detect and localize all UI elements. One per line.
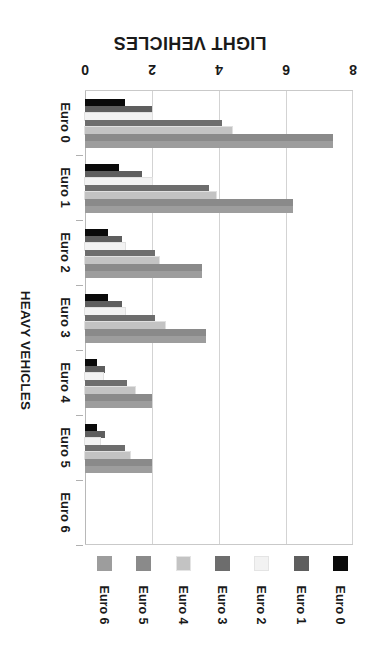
plot-area <box>85 90 353 545</box>
legend-item-euro-2[interactable]: Euro 2 <box>242 552 281 652</box>
bar-fill <box>85 380 127 387</box>
bar-fill <box>85 250 155 257</box>
bar <box>85 322 165 329</box>
legend-label: Euro 2 <box>242 576 281 648</box>
bar <box>85 171 142 178</box>
bar <box>85 236 122 243</box>
bar-fill <box>85 366 105 373</box>
legend-item-euro-3[interactable]: Euro 3 <box>203 552 242 652</box>
bar-group-euro-2 <box>85 221 353 286</box>
bar-fill <box>85 134 333 141</box>
bar-fill <box>85 401 152 408</box>
bar-group-euro-0 <box>85 91 353 156</box>
category-label-text: Euro 3 <box>58 297 73 337</box>
bar-fill <box>85 271 202 278</box>
legend-label-text: Euro 2 <box>255 586 269 625</box>
chart-legend: Euro 6Euro 5Euro 4Euro 3Euro 2Euro 1Euro… <box>85 552 360 652</box>
bar <box>85 359 97 366</box>
category-label-euro-6: Euro 6 <box>46 480 84 545</box>
bar-fill <box>85 315 155 322</box>
bar-fill <box>85 192 216 199</box>
bar <box>85 271 202 278</box>
bar <box>85 192 216 199</box>
bar <box>85 120 222 127</box>
value-axis-tick-0: 0 <box>81 62 89 78</box>
bar <box>85 308 125 315</box>
bar-fill <box>85 185 209 192</box>
legend-item-euro-0[interactable]: Euro 0 <box>321 552 360 652</box>
legend-label-text: Euro 1 <box>294 586 308 625</box>
legend-swatch <box>176 556 191 571</box>
legend-label: Euro 1 <box>281 576 320 648</box>
bar-fill <box>85 438 100 445</box>
bar-fill <box>85 387 135 394</box>
bar <box>85 445 125 452</box>
bar <box>85 373 103 380</box>
bar-group-euro-3 <box>85 286 353 351</box>
legend-label-text: Euro 5 <box>137 586 151 625</box>
bar <box>85 329 206 336</box>
y-axis-title: HEAVY VEHICLES <box>6 200 46 500</box>
bar <box>85 294 108 301</box>
bar-fill <box>85 164 119 171</box>
bar-fill <box>85 120 222 127</box>
legend-item-euro-5[interactable]: Euro 5 <box>124 552 163 652</box>
chart-figure: LIGHT VEHICLES HEAVY VEHICLES 02468 Euro… <box>0 0 380 656</box>
bar-fill <box>85 394 152 401</box>
bar-fill <box>85 113 152 120</box>
legend-label: Euro 6 <box>85 576 124 648</box>
legend-label-text: Euro 6 <box>98 586 112 625</box>
bar-fill <box>85 322 165 329</box>
bar <box>85 141 333 148</box>
bar <box>85 206 293 213</box>
bar <box>85 243 125 250</box>
bar <box>85 164 119 171</box>
value-axis-tick-3: 6 <box>282 62 290 78</box>
bar-fill <box>85 257 159 264</box>
bar <box>85 466 152 473</box>
bar <box>85 401 152 408</box>
bar <box>85 127 232 134</box>
category-axis-labels: Euro 0Euro 1Euro 2Euro 3Euro 4Euro 5Euro… <box>46 90 84 545</box>
bar-group-euro-1 <box>85 156 353 221</box>
bar <box>85 387 135 394</box>
bar <box>85 438 100 445</box>
legend-swatch <box>97 556 112 571</box>
bar-fill <box>85 445 125 452</box>
bar <box>85 394 152 401</box>
category-label-text: Euro 6 <box>58 492 73 532</box>
bar-fill <box>85 236 122 243</box>
bar <box>85 366 105 373</box>
legend-item-euro-1[interactable]: Euro 1 <box>281 552 320 652</box>
value-axis-tick-4: 8 <box>349 62 357 78</box>
bar <box>85 380 127 387</box>
legend-swatch <box>294 556 309 571</box>
legend-swatch <box>333 556 348 571</box>
bar <box>85 178 152 185</box>
category-label-euro-5: Euro 5 <box>46 415 84 480</box>
value-axis-tick-1: 2 <box>148 62 156 78</box>
category-label-euro-3: Euro 3 <box>46 285 84 350</box>
y-axis-title-text: HEAVY VEHICLES <box>19 290 34 409</box>
bar-fill <box>85 459 152 466</box>
legend-item-euro-4[interactable]: Euro 4 <box>164 552 203 652</box>
legend-label: Euro 3 <box>203 576 242 648</box>
bar-fill <box>85 301 122 308</box>
bar <box>85 315 155 322</box>
legend-item-euro-6[interactable]: Euro 6 <box>85 552 124 652</box>
category-label-text: Euro 5 <box>58 427 73 467</box>
bar-group-euro-5 <box>85 416 353 481</box>
category-label-text: Euro 4 <box>58 362 73 402</box>
bar-fill <box>85 336 206 343</box>
bar <box>85 459 152 466</box>
bar <box>85 257 159 264</box>
legend-label: Euro 5 <box>124 576 163 648</box>
bar-fill <box>85 243 125 250</box>
bar <box>85 264 202 271</box>
category-label-euro-1: Euro 1 <box>46 155 84 220</box>
bar-fill <box>85 452 130 459</box>
bar <box>85 113 152 120</box>
bar-fill <box>85 308 125 315</box>
bar <box>85 431 105 438</box>
bar <box>85 185 209 192</box>
